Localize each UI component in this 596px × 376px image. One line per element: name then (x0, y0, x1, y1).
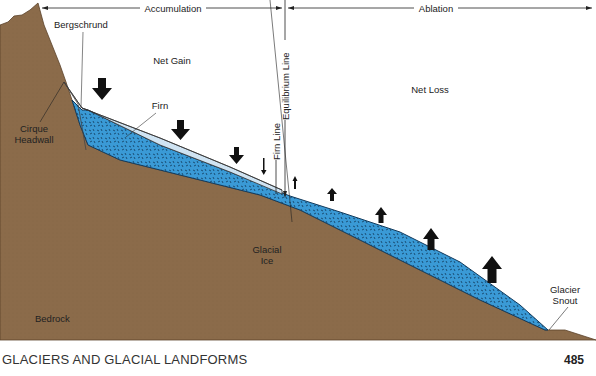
bedrock-label: Bedrock (35, 313, 70, 324)
arrowhead-icon (288, 6, 294, 10)
down-arrow-icon (261, 158, 267, 175)
down-arrow-icon (92, 78, 112, 100)
down-arrow-icon (229, 147, 244, 164)
up-arrow-icon (327, 188, 337, 201)
glacier-snout-label-line1: Glacier (550, 284, 580, 295)
net-gain-label: Net Gain (153, 55, 191, 66)
glacier-mass-balance-diagram: Accumulation Ablation Equilibrium Line F… (0, 0, 596, 376)
arrowhead-icon (586, 6, 592, 10)
bedrock (0, 3, 596, 340)
chapter-title: GLACIERS AND GLACIAL LANDFORMS (2, 352, 247, 367)
up-arrow-icon (293, 176, 298, 189)
glacier-snout-label-line2: Snout (553, 295, 578, 306)
cirque-headwall-label-line1: Cirque (20, 123, 48, 134)
accumulation-label: Accumulation (144, 3, 201, 14)
ablation-label: Ablation (419, 3, 453, 14)
bergschrund-label: Bergschrund (54, 19, 108, 30)
up-arrow-icon (482, 256, 502, 283)
firn-label: Firn (152, 100, 168, 111)
down-arrow-icon (171, 120, 190, 140)
glacial-ice-label-line2: Ice (261, 255, 274, 266)
arrowhead-icon (276, 6, 282, 10)
equilibrium-line-label: Equilibrium Line (280, 52, 291, 120)
firn-line-label: Firn Line (271, 123, 282, 160)
glacial-ice-label-line1: Glacial (252, 244, 281, 255)
net-loss-label: Net Loss (411, 84, 449, 95)
up-arrow-icon (375, 207, 387, 223)
page-number: 485 (564, 353, 584, 367)
arrowhead-icon (42, 6, 48, 10)
cirque-headwall-label-line2: Headwall (14, 134, 53, 145)
